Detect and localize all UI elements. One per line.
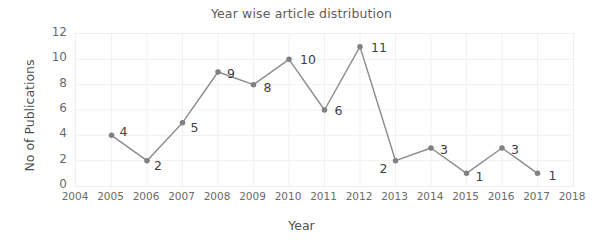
x-axis-tick-label: 2012 xyxy=(339,190,379,202)
chart-figure: Year wise article distribution No of Pub… xyxy=(0,0,603,250)
data-point-label: 2 xyxy=(380,161,388,176)
y-axis-tick-label: 0 xyxy=(37,177,67,191)
y-axis-tick-label: 8 xyxy=(37,76,67,90)
y-axis-tick-label: 2 xyxy=(37,152,67,166)
x-axis-tick-label: 2009 xyxy=(233,190,273,202)
data-point-marker[interactable] xyxy=(393,158,399,164)
data-point-label: 9 xyxy=(227,66,235,81)
x-axis-tick-label: 2004 xyxy=(55,190,95,202)
chart-title: Year wise article distribution xyxy=(0,6,603,21)
x-axis-tick-label: 2013 xyxy=(375,190,415,202)
data-point-label: 11 xyxy=(371,40,387,55)
y-axis-tick-label: 4 xyxy=(37,126,67,140)
data-series xyxy=(76,34,573,186)
x-axis-tick-label: 2007 xyxy=(162,190,202,202)
data-point-marker[interactable] xyxy=(464,171,470,177)
data-point-label: 4 xyxy=(120,124,128,139)
data-point-label: 2 xyxy=(154,158,162,173)
data-point-label: 5 xyxy=(191,120,199,135)
data-point-marker[interactable] xyxy=(109,133,115,139)
x-axis-tick-label: 2005 xyxy=(91,190,131,202)
y-axis-tick-label: 12 xyxy=(37,25,67,39)
x-axis-tick-label: 2014 xyxy=(410,190,450,202)
x-axis-tick-label: 2010 xyxy=(268,190,308,202)
data-point-marker[interactable] xyxy=(357,44,363,50)
x-axis-tick-label: 2008 xyxy=(197,190,237,202)
x-axis-tick-label: 2006 xyxy=(126,190,166,202)
x-axis-tick-label: 2016 xyxy=(481,190,521,202)
data-point-marker[interactable] xyxy=(215,69,221,75)
x-axis-tick-label: 2011 xyxy=(304,190,344,202)
x-axis-tick-label: 2015 xyxy=(446,190,486,202)
y-axis-tick-label: 10 xyxy=(37,50,67,64)
data-point-marker[interactable] xyxy=(322,107,328,113)
x-axis-tick-label: 2018 xyxy=(552,190,592,202)
data-point-marker[interactable] xyxy=(428,145,434,151)
data-point-label: 3 xyxy=(440,142,448,157)
x-axis-title: Year xyxy=(0,218,603,233)
data-point-label: 8 xyxy=(264,80,272,95)
data-point-label: 1 xyxy=(476,169,484,184)
y-axis-tick-label: 6 xyxy=(37,101,67,115)
data-point-label: 1 xyxy=(549,168,557,183)
data-point-marker[interactable] xyxy=(251,82,257,88)
data-point-marker[interactable] xyxy=(535,171,541,177)
y-axis-title: No of Publications xyxy=(22,36,37,196)
data-point-label: 10 xyxy=(300,52,316,67)
x-axis-tick-label: 2017 xyxy=(517,190,557,202)
data-point-marker[interactable] xyxy=(499,145,505,151)
data-point-label: 6 xyxy=(335,103,343,118)
plot-area xyxy=(75,33,574,187)
data-point-marker[interactable] xyxy=(286,57,292,63)
data-point-marker[interactable] xyxy=(180,120,186,126)
data-point-label: 3 xyxy=(511,142,519,157)
data-point-marker[interactable] xyxy=(144,158,150,164)
